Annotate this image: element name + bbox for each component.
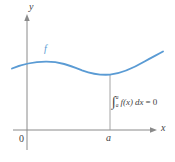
- x-axis-arrowhead: [150, 127, 157, 132]
- integral-annotation: ∫ a a f(x) dx = 0: [112, 95, 157, 109]
- integral-sign: ∫: [112, 95, 116, 109]
- integral-result: 0: [153, 97, 158, 107]
- plot-canvas: [0, 0, 175, 162]
- integral-lower-limit: a: [116, 103, 119, 109]
- curve-label-f: f: [44, 44, 47, 54]
- origin-label: 0: [19, 134, 24, 144]
- equals-sign: =: [146, 97, 151, 107]
- integral-limits: a a: [116, 96, 119, 109]
- function-curve: [12, 52, 163, 75]
- differential: dx: [135, 97, 144, 107]
- integral-upper-limit: a: [116, 95, 119, 101]
- integral-figure: y x 0 a f ∫ a a f(x) dx = 0: [0, 0, 175, 162]
- integrand: f(x): [121, 97, 134, 107]
- y-axis-label: y: [29, 2, 33, 12]
- y-axis-arrowhead: [24, 14, 29, 21]
- x-axis-label: x: [161, 123, 165, 133]
- x-tick-label-a: a: [106, 133, 111, 143]
